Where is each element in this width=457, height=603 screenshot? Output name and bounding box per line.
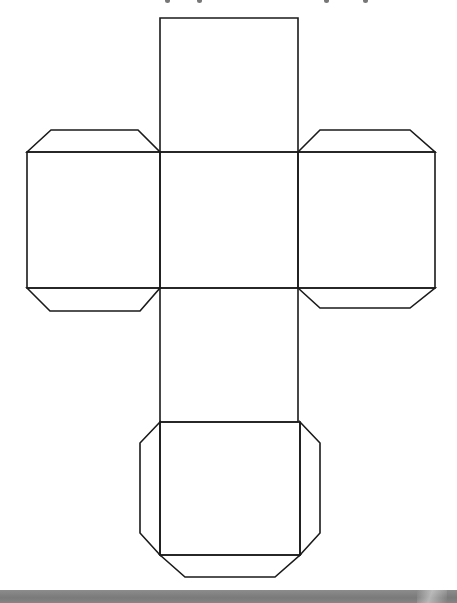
bottom-lower-tab: [160, 555, 300, 577]
page-edge-shadow: [0, 590, 457, 603]
lower-face: [160, 288, 298, 422]
cube-net-diagram: [0, 0, 457, 603]
text-fragment: [165, 0, 170, 3]
text-fragment: [324, 0, 329, 3]
bottom-left-tab: [140, 422, 160, 555]
clipped-text-fragments: [0, 0, 457, 4]
text-fragment: [363, 0, 368, 3]
left-face: [27, 152, 160, 288]
text-fragment: [197, 0, 202, 3]
cube-faces: [27, 18, 435, 555]
bottom-face: [160, 422, 300, 555]
left-bottom-tab: [27, 288, 160, 311]
right-top-tab: [298, 130, 435, 152]
right-bottom-tab: [298, 288, 435, 308]
glue-tabs: [27, 130, 435, 577]
cube-net-svg: [0, 0, 457, 603]
top-face: [160, 18, 298, 152]
page-curl-sheen: [417, 590, 447, 603]
center-face: [160, 152, 298, 288]
bottom-right-tab: [300, 422, 320, 555]
right-face: [298, 152, 435, 288]
left-top-tab: [27, 130, 160, 152]
